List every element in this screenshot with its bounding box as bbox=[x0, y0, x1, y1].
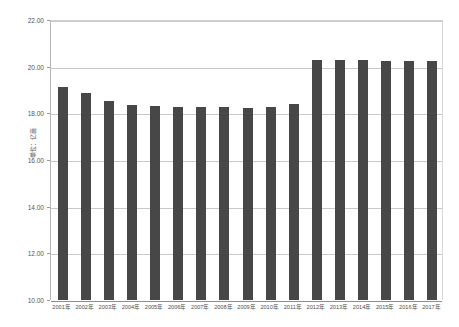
x-axis-tick-label: 2001年 bbox=[52, 303, 70, 311]
bar bbox=[427, 61, 437, 300]
y-axis-tick-label: 20.00 bbox=[28, 63, 44, 70]
axis-baseline bbox=[51, 301, 442, 302]
bar bbox=[196, 107, 206, 300]
bar bbox=[58, 87, 68, 300]
bar bbox=[150, 106, 160, 300]
x-axis-tick-label: 2007年 bbox=[191, 303, 209, 311]
bar bbox=[219, 107, 229, 300]
x-axis-tick-label: 2003年 bbox=[99, 303, 117, 311]
x-axis-tick-label: 2011年 bbox=[284, 303, 302, 311]
x-axis-tick-label: 2012年 bbox=[307, 303, 325, 311]
y-axis-tick-label: 14.00 bbox=[28, 203, 44, 210]
bar bbox=[104, 101, 114, 300]
x-axis-tick-label: 2013年 bbox=[330, 303, 348, 311]
x-axis-tick-label: 2004年 bbox=[122, 303, 140, 311]
x-axis-tick-label: 2016年 bbox=[399, 303, 417, 311]
x-axis-tick-label: 2009年 bbox=[237, 303, 255, 311]
bar bbox=[266, 107, 276, 300]
x-axis-tick-labels: 2001年2002年2003年2004年2005年2006年2007年2008年… bbox=[50, 303, 443, 325]
x-axis-tick-label: 2010年 bbox=[260, 303, 278, 311]
x-axis-tick-label: 2008年 bbox=[214, 303, 232, 311]
x-axis-tick-label: 2005年 bbox=[145, 303, 163, 311]
x-axis-tick-label: 2014年 bbox=[353, 303, 371, 311]
y-axis-tick-label: 12.00 bbox=[28, 250, 44, 257]
bar bbox=[358, 60, 368, 300]
bars-layer bbox=[51, 21, 442, 300]
bar-chart: 单位：亿亩 10.0012.0014.0016.0018.0020.0022.0… bbox=[0, 0, 459, 327]
bar bbox=[173, 107, 183, 300]
y-axis-tick-labels: 10.0012.0014.0016.0018.0020.0022.00 bbox=[0, 0, 50, 327]
y-axis-tick-label: 22.00 bbox=[28, 17, 44, 24]
y-axis-tick-label: 16.00 bbox=[28, 157, 44, 164]
bar bbox=[312, 60, 322, 300]
bar bbox=[127, 105, 137, 300]
x-axis-tick-label: 2017年 bbox=[422, 303, 440, 311]
x-axis-tick-label: 2002年 bbox=[75, 303, 93, 311]
bar bbox=[243, 108, 253, 301]
y-axis-tick-label: 18.00 bbox=[28, 110, 44, 117]
bar bbox=[81, 93, 91, 300]
x-axis-tick-label: 2015年 bbox=[376, 303, 394, 311]
bar bbox=[289, 104, 299, 300]
bar bbox=[404, 61, 414, 300]
plot-area bbox=[50, 20, 443, 300]
y-axis-tick-mark bbox=[47, 300, 50, 301]
y-axis-tick-label: 10.00 bbox=[28, 297, 44, 304]
bar bbox=[381, 61, 391, 300]
x-axis-tick-label: 2006年 bbox=[168, 303, 186, 311]
bar bbox=[335, 60, 345, 300]
